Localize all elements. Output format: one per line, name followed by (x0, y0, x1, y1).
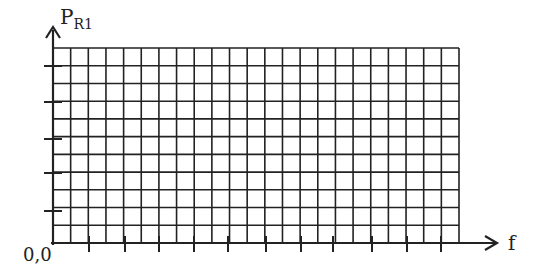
grid-lines (53, 48, 459, 243)
origin-label: 0,0 (23, 244, 52, 265)
axes (46, 27, 497, 250)
x-axis-label: f (508, 231, 517, 255)
y-axis-label: PR1 (60, 5, 93, 32)
axis-ticks (44, 66, 441, 252)
empty-graph-grid: PR1 f 0,0 (0, 0, 547, 279)
